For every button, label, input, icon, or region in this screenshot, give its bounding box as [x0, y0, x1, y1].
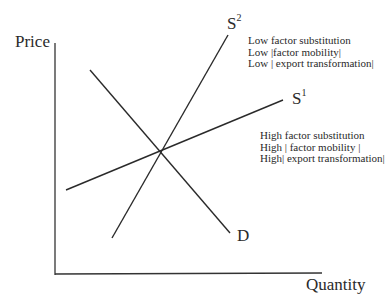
s1-label: S1 — [292, 89, 306, 109]
high-note-line-1: High factor substitution — [260, 130, 385, 142]
low-note-line-3: Low | export transformation| — [248, 58, 374, 70]
demand-curve-d — [90, 70, 230, 233]
supply-curve-s1 — [66, 100, 283, 190]
s1-label-sup: 1 — [301, 87, 306, 98]
x-axis-label: Quantity — [306, 275, 366, 295]
d-label: D — [237, 226, 249, 246]
low-note-line-1: Low factor substitution — [248, 35, 374, 47]
s2-label: S2 — [227, 14, 241, 34]
x-axis — [55, 273, 322, 274]
supply-curve-s2 — [112, 35, 228, 238]
high-note-line-3: High| export transformation| — [260, 153, 385, 165]
y-axis-label: Price — [15, 32, 50, 52]
low-elasticity-note: Low factor substitution Low |factor mobi… — [248, 35, 374, 70]
s2-label-sup: 2 — [236, 12, 241, 23]
high-elasticity-note: High factor substitution High | factor m… — [260, 130, 385, 165]
